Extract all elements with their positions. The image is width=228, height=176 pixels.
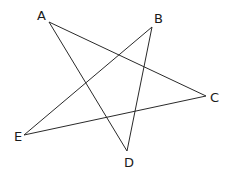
- segment-b-e: [24, 27, 152, 135]
- segment-e-c: [24, 96, 206, 135]
- segment-a-d: [49, 22, 127, 151]
- point-label-e: E: [14, 130, 22, 143]
- segment-a-c: [49, 22, 206, 96]
- segment-b-d: [127, 27, 152, 151]
- pentagram-diagram: [0, 0, 228, 176]
- point-label-b: B: [154, 12, 163, 25]
- point-label-c: C: [210, 91, 219, 104]
- point-label-d: D: [124, 156, 134, 169]
- point-label-a: A: [37, 9, 46, 22]
